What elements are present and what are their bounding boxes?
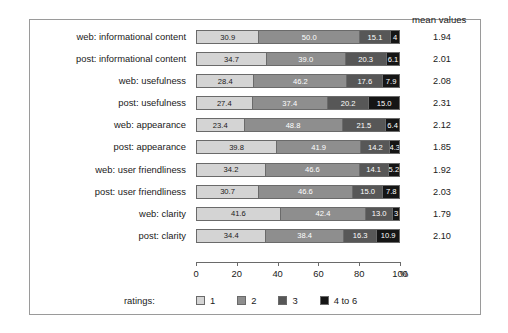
legend-swatch-icon: [237, 296, 246, 305]
bar-segment-rating-1: 30.9: [197, 31, 258, 43]
bar-segment-rating-4-to-6: 5.2: [388, 164, 399, 176]
stacked-bar: 39.841.914.24.3: [196, 140, 400, 154]
legend-swatch-icon: [196, 296, 205, 305]
chart-row: post: usefulness27.437.420.215.02.31: [196, 96, 400, 110]
legend-label: 3: [292, 295, 297, 306]
bar-segment-rating-3: 14.1: [359, 164, 388, 176]
chart-row: web: informational content30.950.015.141…: [196, 30, 400, 44]
stacked-bar: 28.446.217.67.9: [196, 74, 400, 88]
bar-segment-rating-3: 13.0: [365, 208, 392, 220]
mean-value: 1.92: [412, 163, 472, 177]
legend-swatch-icon: [278, 296, 287, 305]
axis-tick-label: 60: [313, 268, 323, 279]
category-label: web: informational content: [20, 30, 196, 44]
bar-segment-rating-3: 21.5: [342, 119, 386, 131]
legend-label: 4 to 6: [334, 295, 357, 306]
legend-item: 2: [237, 295, 256, 306]
bar-segment-rating-4-to-6: 7.9: [382, 75, 399, 87]
mean-value: 2.10: [412, 229, 472, 243]
axis-tick: [237, 262, 238, 266]
bar-segment-rating-4-to-6: 4.3: [389, 141, 399, 153]
chart-row: web: usefulness28.446.217.67.92.08: [196, 74, 400, 88]
bar-segment-rating-1: 23.4: [197, 119, 244, 131]
legend-swatch-icon: [320, 296, 329, 305]
bar-segment-rating-1: 41.6: [197, 208, 280, 220]
axis-tick: [400, 262, 401, 266]
legend-item: 1: [196, 295, 215, 306]
bar-segment-rating-4-to-6: 10.9: [376, 230, 399, 242]
axis-tick: [196, 262, 197, 266]
mean-value: 2.08: [412, 74, 472, 88]
category-label: web: appearance: [20, 118, 196, 132]
bar-segment-rating-3: 14.2: [360, 141, 389, 153]
bar-segment-rating-2: 46.2: [253, 75, 346, 87]
mean-value: 2.31: [412, 96, 472, 110]
chart-row: web: appearance23.448.821.56.42.12: [196, 118, 400, 132]
stacked-bar: 34.438.416.310.9: [196, 229, 400, 243]
bar-segment-rating-1: 27.4: [197, 97, 252, 109]
bar-segment-rating-3: 15.0: [352, 186, 383, 198]
stacked-bar: 34.739.020.36.1: [196, 52, 400, 66]
category-label: post: appearance: [20, 140, 196, 154]
bar-segment-rating-4-to-6: 15.0: [368, 97, 399, 109]
bar-segment-rating-2: 37.4: [252, 97, 327, 109]
mean-values-header: mean values: [412, 14, 466, 25]
bar-segment-rating-1: 34.4: [197, 230, 265, 242]
mean-value: 2.12: [412, 118, 472, 132]
stacked-bar: 23.448.821.56.4: [196, 118, 400, 132]
bar-segment-rating-1: 34.2: [197, 164, 265, 176]
bar-segment-rating-3: 20.3: [345, 53, 386, 65]
chart-row: web: user friendliness34.246.614.15.21.9…: [196, 163, 400, 177]
bar-segment-rating-2: 39.0: [266, 53, 345, 65]
stacked-bar: 34.246.614.15.2: [196, 163, 400, 177]
stacked-bar: 27.437.420.215.0: [196, 96, 400, 110]
axis-tick-label: 80: [354, 268, 364, 279]
category-label: post: usefulness: [20, 96, 196, 110]
bar-segment-rating-4-to-6: 7.8: [382, 186, 399, 198]
bar-segment-rating-2: 46.6: [265, 164, 359, 176]
axis-tick-label: 40: [272, 268, 282, 279]
mean-value: 2.01: [412, 52, 472, 66]
legend-item: 3: [278, 295, 297, 306]
category-label: web: user friendliness: [20, 163, 196, 177]
mean-value: 1.94: [412, 30, 472, 44]
stacked-bar: 41.642.413.03: [196, 207, 400, 221]
category-label: web: usefulness: [20, 74, 196, 88]
category-label: post: informational content: [20, 52, 196, 66]
mean-value: 1.79: [412, 207, 472, 221]
chart-row: post: user friendliness30.746.615.07.82.…: [196, 185, 400, 199]
legend-label: 2: [251, 295, 256, 306]
bar-segment-rating-3: 17.6: [346, 75, 382, 87]
axis-unit-label: %: [400, 268, 408, 279]
bar-segment-rating-4-to-6: 6.1: [386, 53, 399, 65]
legend-item: 4 to 6: [320, 295, 357, 306]
mean-value: 2.03: [412, 185, 472, 199]
axis-tick-label: 20: [232, 268, 242, 279]
bar-segment-rating-2: 41.9: [276, 141, 360, 153]
category-label: web: clarity: [20, 207, 196, 221]
bar-segment-rating-1: 28.4: [197, 75, 253, 87]
stacked-bar-plot-area: web: informational content30.950.015.141…: [196, 30, 400, 251]
bar-segment-rating-1: 30.7: [197, 186, 258, 198]
axis-tick: [359, 262, 360, 266]
bar-segment-rating-2: 50.0: [258, 31, 359, 43]
axis-tick: [318, 262, 319, 266]
stacked-bar: 30.746.615.07.8: [196, 185, 400, 199]
bar-segment-rating-2: 42.4: [280, 208, 365, 220]
chart-row: post: informational content34.739.020.36…: [196, 52, 400, 66]
bar-segment-rating-4-to-6: 6.4: [385, 119, 399, 131]
stacked-bar: 30.950.015.14: [196, 30, 400, 44]
legend-label: 1: [210, 295, 215, 306]
axis-tick: [278, 262, 279, 266]
bar-segment-rating-4-to-6: 4: [390, 31, 399, 43]
bar-segment-rating-4-to-6: 3: [392, 208, 399, 220]
x-axis: 020406080100%: [196, 262, 400, 263]
chart-row: web: clarity41.642.413.031.79: [196, 207, 400, 221]
bar-segment-rating-1: 39.8: [197, 141, 276, 153]
chart-row: post: clarity34.438.416.310.92.10: [196, 229, 400, 243]
bar-segment-rating-3: 15.1: [359, 31, 390, 43]
bar-segment-rating-2: 48.8: [244, 119, 342, 131]
legend-title: ratings:: [124, 295, 155, 306]
chart-legend: ratings: 1234 to 6: [196, 295, 379, 306]
category-label: post: user friendliness: [20, 185, 196, 199]
